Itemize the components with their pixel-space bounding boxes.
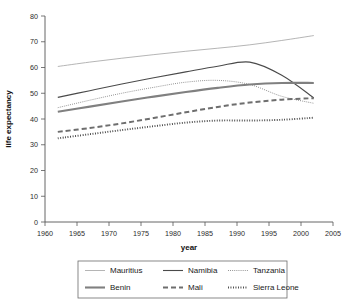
x-tick-label: 1985 xyxy=(197,229,213,238)
x-tick-label: 1980 xyxy=(165,229,181,238)
legend-label-mauritius: Mauritius xyxy=(110,266,142,275)
x-tick-label: 2005 xyxy=(325,229,341,238)
legend-item-namibia[interactable]: Namibia xyxy=(163,266,218,275)
legend-item-mauritius[interactable]: Mauritius xyxy=(85,266,142,275)
x-tick-label: 1970 xyxy=(101,229,117,238)
line-chart: 01020304050607080 life expectancy 196019… xyxy=(0,0,344,305)
y-tick-label: 70 xyxy=(30,37,38,46)
x-tick-label: 1975 xyxy=(133,229,149,238)
legend-label-benin: Benin xyxy=(110,283,130,292)
y-axis-ticks: 01020304050607080 xyxy=(30,12,45,227)
series-line-mauritius xyxy=(58,36,314,67)
legend-item-sierra-leone[interactable]: Sierra Leone xyxy=(228,283,299,292)
series-line-tanzania xyxy=(58,80,314,107)
x-axis-ticks: 1960196519701975198019851990199520002005 xyxy=(37,222,341,238)
x-axis-title: year xyxy=(181,243,197,252)
legend-entries: MauritiusBeninNamibiaMaliTanzaniaSierra … xyxy=(85,266,299,292)
x-tick-label: 1990 xyxy=(229,229,245,238)
series-line-sierra-leone xyxy=(58,118,314,139)
x-tick-label: 1960 xyxy=(37,229,53,238)
y-tick-label: 20 xyxy=(30,166,38,175)
x-axis: 1960196519701975198019851990199520002005… xyxy=(37,222,341,252)
y-axis-title: life expectancy xyxy=(4,90,13,148)
legend-label-tanzania: Tanzania xyxy=(253,266,286,275)
chart-legend: MauritiusBeninNamibiaMaliTanzaniaSierra … xyxy=(78,261,299,298)
legend-item-tanzania[interactable]: Tanzania xyxy=(228,266,286,275)
y-tick-label: 60 xyxy=(30,63,38,72)
y-tick-label: 10 xyxy=(30,192,38,201)
y-tick-label: 50 xyxy=(30,89,38,98)
y-axis: 01020304050607080 life expectancy xyxy=(4,12,45,227)
series-line-mali xyxy=(58,98,314,132)
series-line-benin xyxy=(58,83,314,112)
data-series-group xyxy=(58,36,314,139)
legend-label-sierra-leone: Sierra Leone xyxy=(253,283,299,292)
legend-label-namibia: Namibia xyxy=(188,266,218,275)
x-tick-label: 2000 xyxy=(293,229,309,238)
y-tick-label: 30 xyxy=(30,140,38,149)
x-tick-label: 1965 xyxy=(69,229,85,238)
y-tick-label: 80 xyxy=(30,12,38,21)
x-tick-label: 1995 xyxy=(261,229,277,238)
legend-item-mali[interactable]: Mali xyxy=(163,283,203,292)
y-tick-label: 40 xyxy=(30,115,38,124)
chart-figure: 01020304050607080 life expectancy 196019… xyxy=(0,0,344,305)
legend-label-mali: Mali xyxy=(188,283,203,292)
y-tick-label: 0 xyxy=(34,218,38,227)
legend-item-benin[interactable]: Benin xyxy=(85,283,130,292)
